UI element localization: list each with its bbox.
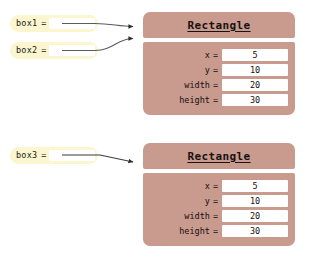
field-label: width (184, 81, 210, 90)
field-label: height (179, 96, 210, 105)
field-label: y (205, 197, 210, 206)
field-equals-sign: = (213, 197, 218, 206)
variable-name-label: box1 (16, 19, 37, 28)
variable-equals-sign: = (41, 46, 46, 55)
variable-value-slot[interactable] (49, 45, 95, 56)
field-value[interactable]: 30 (222, 225, 288, 237)
field-value[interactable]: 30 (222, 94, 288, 106)
object-field-row: x = 5 (150, 49, 288, 61)
variable-box-box2[interactable]: box2 = (10, 42, 98, 59)
field-equals-sign: = (213, 66, 218, 75)
object-field-row: x = 5 (150, 180, 288, 192)
object-header: Rectangle (143, 12, 295, 38)
variable-box-box1[interactable]: box1 = (10, 15, 98, 32)
variable-name-label: box3 (16, 151, 37, 160)
field-value[interactable]: 10 (222, 64, 288, 76)
variable-value-slot[interactable] (49, 150, 95, 161)
field-label: height (179, 227, 210, 236)
object-field-row: height = 30 (150, 94, 288, 106)
object-field-row: height = 30 (150, 225, 288, 237)
object-card-rectangle-2[interactable]: Rectangle x = 5 y = 10 width = 20 height… (143, 143, 295, 246)
object-field-row: y = 10 (150, 195, 288, 207)
field-value[interactable]: 20 (222, 79, 288, 91)
field-value[interactable]: 20 (222, 210, 288, 222)
object-field-row: y = 10 (150, 64, 288, 76)
field-equals-sign: = (213, 182, 218, 191)
field-label: x (205, 51, 210, 60)
field-equals-sign: = (213, 227, 218, 236)
field-value[interactable]: 10 (222, 195, 288, 207)
object-field-row: width = 20 (150, 210, 288, 222)
variable-equals-sign: = (41, 19, 46, 28)
field-label: x (205, 182, 210, 191)
field-label: y (205, 66, 210, 75)
object-card-rectangle-1[interactable]: Rectangle x = 5 y = 10 width = 20 height… (143, 12, 295, 115)
object-fields-body: x = 5 y = 10 width = 20 height = 30 (143, 42, 295, 115)
variable-box-box3[interactable]: box3 = (10, 147, 98, 164)
object-type-title: Rectangle (187, 150, 250, 163)
variable-value-slot[interactable] (49, 18, 95, 29)
field-equals-sign: = (213, 51, 218, 60)
object-header: Rectangle (143, 143, 295, 169)
object-reference-diagram: box1 = box2 = box3 = Rectangle x = 5 y = (0, 0, 312, 267)
field-equals-sign: = (213, 212, 218, 221)
variable-name-label: box2 (16, 46, 37, 55)
object-fields-body: x = 5 y = 10 width = 20 height = 30 (143, 173, 295, 246)
field-label: width (184, 212, 210, 221)
field-equals-sign: = (213, 96, 218, 105)
object-type-title: Rectangle (187, 19, 250, 32)
field-value[interactable]: 5 (222, 180, 288, 192)
variable-equals-sign: = (41, 151, 46, 160)
field-value[interactable]: 5 (222, 49, 288, 61)
field-equals-sign: = (213, 81, 218, 90)
object-field-row: width = 20 (150, 79, 288, 91)
